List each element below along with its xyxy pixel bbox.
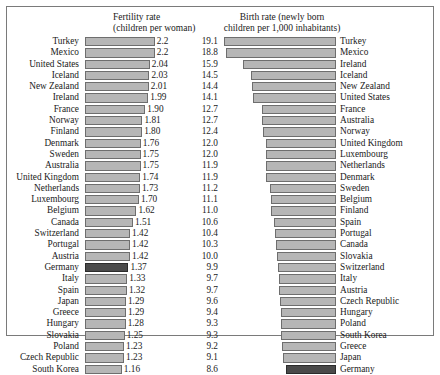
chart-row: Spain1.329.7Austria (6, 285, 434, 296)
fertility-bar (85, 286, 127, 295)
fertility-country-label: Portugal (6, 239, 79, 250)
chart-row: Turkey2.219.1Turkey (6, 36, 434, 47)
chart-row: Ireland1.9914.1United States (6, 92, 434, 103)
birthrate-value-label: 9.6 (158, 296, 218, 307)
fertility-country-label: Denmark (6, 138, 79, 149)
chart-rows: Turkey2.219.1TurkeyMexico2.218.8MexicoUn… (6, 36, 434, 375)
birthrate-country-label: Ireland (340, 59, 436, 70)
fertility-value-label: 1.37 (130, 262, 146, 273)
birthrate-value-label: 12.0 (158, 149, 218, 160)
fertility-bar (85, 105, 145, 114)
birthrate-plot-cell (221, 341, 336, 352)
fertility-bar (85, 342, 124, 351)
fertility-bar (85, 229, 130, 238)
birthrate-bar (286, 365, 336, 374)
chart-row: Netherlands1.7311.2Sweden (6, 183, 434, 194)
birthrate-value-label: 11.0 (158, 205, 218, 216)
chart-row: Hungary1.289.3Poland (6, 318, 434, 329)
birthrate-value-label: 9.7 (158, 285, 218, 296)
birthrate-bar (283, 353, 336, 362)
fertility-plot-cell: 1.62 (85, 205, 158, 216)
birthrate-bar (270, 184, 336, 193)
fertility-country-label: Spain (6, 285, 79, 296)
fertility-country-label: Greece (6, 307, 79, 318)
birthrate-country-label: Italy (340, 273, 436, 284)
fertility-value-label: 1.42 (132, 228, 148, 239)
birthrate-value-label: 19.1 (158, 36, 218, 47)
fertility-bar (85, 274, 127, 283)
fertility-value-label: 1.75 (143, 160, 159, 171)
fertility-value-label: 1.29 (128, 307, 144, 318)
fertility-plot-cell: 2.04 (85, 59, 158, 70)
birthrate-bar (266, 150, 336, 159)
birthrate-bar (243, 60, 336, 69)
chart-row: France1.9012.7France (6, 104, 434, 115)
fertility-bar (85, 71, 149, 80)
fertility-bar (85, 173, 140, 182)
birthrate-bar (281, 319, 336, 328)
chart-row: Poland1.239.2Greece (6, 341, 434, 352)
birthrate-bar (280, 297, 336, 306)
birthrate-value-label: 12.4 (158, 126, 218, 137)
chart-row: Slovakia1.259.3South Korea (6, 330, 434, 341)
fertility-plot-cell: 1.81 (85, 115, 158, 126)
birthrate-value-label: 10.4 (158, 228, 218, 239)
fertility-plot-cell: 1.74 (85, 172, 158, 183)
birthrate-plot-cell (221, 330, 336, 341)
birthrate-plot-cell (221, 251, 336, 262)
birthrate-value-label: 9.4 (158, 307, 218, 318)
birthrate-country-label: New Zealand (340, 81, 436, 92)
birthrate-plot-cell (221, 205, 336, 216)
birthrate-country-label: Austria (340, 285, 436, 296)
fertility-bar (85, 365, 122, 374)
fertility-country-label: Austria (6, 251, 79, 262)
birthrate-country-label: Norway (340, 126, 436, 137)
fertility-bar (85, 297, 126, 306)
birthrate-value-label: 9.9 (158, 262, 218, 273)
birthrate-country-label: United States (340, 92, 436, 103)
chart-row: Finland1.8012.4Norway (6, 126, 434, 137)
birthrate-bar (226, 48, 336, 57)
fertility-plot-cell: 1.28 (85, 318, 158, 329)
fertility-country-label: Turkey (6, 36, 79, 47)
fertility-value-label: 1.62 (138, 205, 154, 216)
fertility-country-label: Ireland (6, 92, 79, 103)
fertility-bar (85, 184, 140, 193)
fertility-plot-cell: 2.2 (85, 47, 158, 58)
birthrate-plot-cell (221, 217, 336, 228)
birthrate-country-label: Greece (340, 341, 436, 352)
fertility-bar (85, 37, 155, 46)
birthrate-country-label: United Kingdom (340, 138, 436, 149)
fertility-value-label: 1.75 (143, 149, 159, 160)
fertility-bar (85, 308, 126, 317)
birthrate-plot-cell (221, 59, 336, 70)
birthrate-plot-cell (221, 318, 336, 329)
birthrate-value-label: 10.3 (158, 239, 218, 250)
birthrate-bar (282, 342, 336, 351)
fertility-bar (85, 195, 139, 204)
fertility-value-label: 1.76 (143, 138, 159, 149)
birthrate-plot-cell (221, 138, 336, 149)
birthrate-plot-cell (221, 352, 336, 363)
fertility-bar (85, 48, 155, 57)
fertility-country-label: Japan (6, 296, 79, 307)
birthrate-plot-cell (221, 307, 336, 318)
fertility-country-label: Norway (6, 115, 79, 126)
fertility-bar (85, 218, 133, 227)
birthrate-bar (224, 37, 336, 46)
fertility-bar (85, 319, 126, 328)
fertility-plot-cell: 1.99 (85, 92, 158, 103)
birthrate-bar (275, 229, 336, 238)
chart-row: Canada1.5110.6Spain (6, 217, 434, 228)
birthrate-country-label: Germany (340, 364, 436, 375)
fertility-country-label: Czech Republic (6, 352, 79, 363)
birthrate-country-label: Poland (340, 318, 436, 329)
birthrate-country-label: Hungary (340, 307, 436, 318)
birthrate-value-label: 11.1 (158, 194, 218, 205)
birthrate-value-label: 18.8 (158, 47, 218, 58)
fertility-country-label: Germany (6, 262, 79, 273)
birthrate-value-label: 11.9 (158, 172, 218, 183)
birthrate-plot-cell (221, 115, 336, 126)
birthrate-plot-cell (221, 36, 336, 47)
birthrate-bar (271, 206, 336, 215)
